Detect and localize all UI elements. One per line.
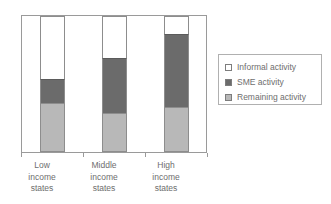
bar-segment-remaining-activity bbox=[40, 103, 65, 152]
legend-swatch-icon bbox=[225, 79, 232, 86]
x-axis-tick bbox=[83, 153, 84, 157]
legend-item-sme-activity: SME activity bbox=[225, 75, 321, 89]
x-axis-tick bbox=[145, 153, 146, 157]
x-axis-label-low-income-states: Low income states bbox=[11, 160, 73, 195]
legend-item-remaining-activity: Remaining activity bbox=[225, 90, 321, 104]
x-axis-label-line: income bbox=[11, 172, 73, 184]
legend-item-label: Informal activity bbox=[237, 62, 296, 72]
legend-item-informal-activity: Informal activity bbox=[225, 60, 321, 74]
x-axis-label-line: High bbox=[135, 160, 197, 172]
bar-segment-remaining-activity bbox=[164, 107, 189, 152]
bar-segment-remaining-activity bbox=[102, 113, 127, 152]
x-axis-label-high-income-states: High income states bbox=[135, 160, 197, 195]
bar-segment-informal-activity bbox=[102, 16, 127, 58]
x-axis-label-line: income bbox=[73, 172, 135, 184]
x-axis-label-line: states bbox=[73, 183, 135, 195]
x-axis-label-line: Middle bbox=[73, 160, 135, 172]
x-axis-label-line: Low bbox=[11, 160, 73, 172]
bar-high-income-states bbox=[164, 16, 189, 152]
legend-swatch-icon bbox=[225, 94, 232, 101]
bar-segment-sme-activity bbox=[102, 58, 127, 112]
x-axis-label-line: income bbox=[135, 172, 197, 184]
bar-segment-sme-activity bbox=[40, 79, 65, 103]
chart-legend: Informal activity SME activity Remaining… bbox=[218, 54, 322, 105]
plot-area bbox=[21, 15, 207, 153]
x-axis-label-line: states bbox=[135, 183, 197, 195]
x-axis-tick bbox=[21, 153, 22, 157]
bar-segment-sme-activity bbox=[164, 34, 189, 107]
bar-segment-informal-activity bbox=[40, 16, 65, 79]
bar-segment-informal-activity bbox=[164, 16, 189, 34]
legend-item-label: Remaining activity bbox=[237, 92, 306, 102]
x-axis-label-middle-income-states: Middle income states bbox=[73, 160, 135, 195]
bar-middle-income-states bbox=[102, 16, 127, 152]
legend-item-label: SME activity bbox=[237, 77, 284, 87]
x-axis-tick bbox=[207, 153, 208, 157]
legend-swatch-icon bbox=[225, 64, 232, 71]
x-axis-label-line: states bbox=[11, 183, 73, 195]
bar-low-income-states bbox=[40, 16, 65, 152]
stacked-bar-chart: Low income states Middle income states H… bbox=[0, 0, 331, 204]
